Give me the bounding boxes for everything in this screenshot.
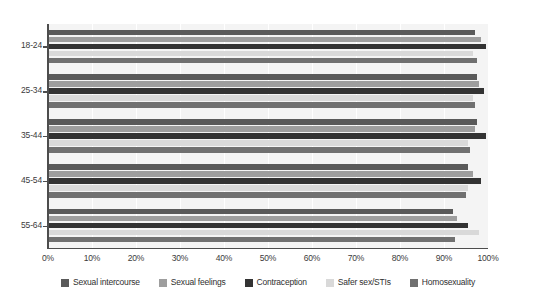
bar (48, 216, 457, 222)
y-axis-tick (43, 136, 48, 137)
y-axis-tick (43, 181, 48, 182)
bar (48, 37, 481, 43)
bar (48, 126, 475, 132)
x-axis-tick-label: 50% (246, 253, 290, 263)
legend-item[interactable]: Sexual intercourse (61, 278, 140, 287)
bar (48, 119, 477, 125)
bar (48, 192, 466, 198)
x-axis-tick-label: 0% (26, 253, 70, 263)
bar (48, 185, 468, 191)
bar-group (48, 209, 488, 243)
y-axis-tick-label: 45-54 (0, 176, 42, 185)
y-axis-tick-label: 18-24 (0, 41, 42, 50)
plot-area (48, 24, 488, 248)
bar (48, 51, 473, 57)
bar-group (48, 74, 488, 108)
bar (48, 81, 479, 87)
bar (48, 30, 475, 36)
bar (48, 44, 486, 50)
bar (48, 171, 473, 177)
y-axis-tick (43, 91, 48, 92)
x-axis-line (47, 248, 488, 249)
legend-label: Safer sex/STIs (338, 278, 391, 287)
bar (48, 74, 477, 80)
legend-label: Homosexuality (422, 278, 475, 287)
x-axis-tick-label: 70% (334, 253, 378, 263)
x-axis-tick-label: 90% (422, 253, 466, 263)
bar-group (48, 119, 488, 153)
legend-swatch-icon (61, 279, 69, 287)
legend-label: Contraception (257, 278, 307, 287)
legend-item[interactable]: Safer sex/STIs (326, 278, 391, 287)
bar (48, 133, 486, 139)
bar (48, 237, 455, 243)
bar (48, 95, 473, 101)
bar (48, 102, 475, 108)
legend: Sexual intercourseSexual feelingsContrac… (0, 278, 536, 287)
gridline (488, 24, 489, 248)
bar (48, 88, 484, 94)
legend-swatch-icon (326, 279, 334, 287)
legend-label: Sexual feelings (171, 278, 226, 287)
legend-item[interactable]: Contraception (245, 278, 307, 287)
bar (48, 209, 453, 215)
bar (48, 58, 477, 64)
y-axis-tick-label: 25-34 (0, 86, 42, 95)
x-axis-tick-label: 10% (70, 253, 114, 263)
legend-swatch-icon (245, 279, 253, 287)
x-axis-tick-label: 100% (466, 253, 510, 263)
bar-chart: 18-2425-3435-4445-5455-64 0%10%20%30%40%… (0, 0, 536, 302)
x-axis-tick-label: 30% (158, 253, 202, 263)
bar (48, 147, 470, 153)
y-axis-tick (43, 46, 48, 47)
bar (48, 140, 468, 146)
legend-item[interactable]: Homosexuality (410, 278, 475, 287)
y-axis-tick-label: 55-64 (0, 221, 42, 230)
legend-item[interactable]: Sexual feelings (159, 278, 226, 287)
bar (48, 178, 481, 184)
legend-swatch-icon (159, 279, 167, 287)
bar (48, 223, 468, 229)
bar-group (48, 164, 488, 198)
x-axis-tick-label: 40% (202, 253, 246, 263)
bar-group (48, 30, 488, 64)
y-axis-tick-label: 35-44 (0, 131, 42, 140)
bar (48, 230, 479, 236)
y-axis-tick (43, 226, 48, 227)
x-axis-tick-label: 80% (378, 253, 422, 263)
x-axis-tick-label: 60% (290, 253, 334, 263)
x-axis-tick-label: 20% (114, 253, 158, 263)
legend-label: Sexual intercourse (73, 278, 140, 287)
legend-swatch-icon (410, 279, 418, 287)
bar (48, 164, 468, 170)
